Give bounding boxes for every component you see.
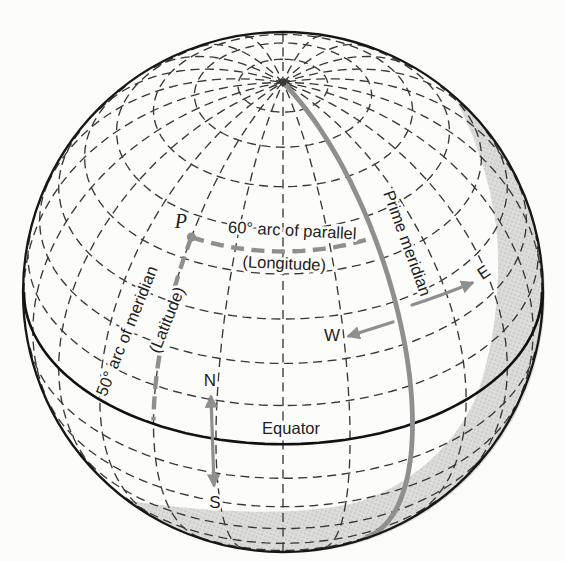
east-label: E [474, 261, 494, 283]
meridian-line [283, 83, 350, 548]
meridian-line [100, 83, 283, 513]
prime-meridian-line [283, 83, 413, 538]
meridian-line [154, 56, 284, 82]
equator-label: Equator [262, 419, 320, 437]
north-south-arrow [211, 397, 214, 485]
meridian-line [283, 83, 413, 538]
latitude-label: (Latitude) [145, 284, 188, 355]
arc-of-meridian-label: 50° arc of meridian [92, 263, 161, 398]
globe-diagram: P 60° arc of parallel (Longitude) 50° ar… [0, 0, 566, 561]
meridian-line [283, 83, 466, 513]
meridian-line [59, 83, 283, 469]
south-label: S [209, 493, 220, 512]
meridian-line [48, 79, 283, 184]
longitude-label: (Longitude) [242, 252, 326, 274]
meridian-line [99, 69, 283, 109]
north-pole-dot [280, 79, 287, 86]
point-p-dot [187, 233, 196, 242]
west-arrow [349, 322, 393, 336]
direction-arrows [211, 283, 472, 485]
meridian-line [283, 69, 467, 109]
arc-of-parallel-label: 60° arc of parallel [228, 218, 357, 243]
west-label: W [324, 326, 340, 345]
north-label: N [204, 371, 216, 390]
globe-svg: P 60° arc of parallel (Longitude) 50° ar… [0, 0, 566, 561]
point-p-label: P [174, 210, 187, 232]
